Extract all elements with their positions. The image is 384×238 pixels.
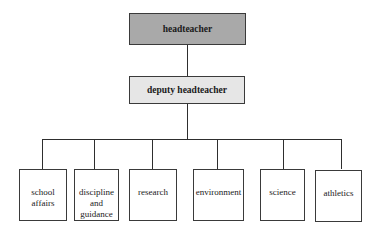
connector-discipline (94, 139, 95, 169)
node-label: environment (195, 187, 243, 198)
node-label: science (268, 187, 296, 198)
node-deputy-headteacher: deputy headteacher (129, 76, 245, 104)
connector-athletics (341, 139, 342, 169)
node-research: research (129, 169, 177, 221)
node-label: school affairs (28, 187, 58, 209)
node-headteacher: headteacher (129, 13, 246, 45)
connector-school-affairs (42, 139, 43, 169)
connector-environment (217, 139, 218, 169)
node-school-affairs: school affairs (19, 169, 67, 221)
node-discipline-and-guidance: discipline and guidance (74, 169, 119, 221)
node-environment: environment (193, 169, 244, 221)
connector-deputy-bus (187, 104, 188, 140)
connector-headteacher-deputy (187, 45, 188, 76)
node-athletics: athletics (315, 170, 362, 222)
connector-science (283, 139, 284, 169)
node-label: research (137, 187, 169, 198)
node-label: deputy headteacher (147, 85, 227, 96)
node-label: athletics (323, 188, 355, 199)
org-chart: headteacher deputy headteacher school af… (0, 0, 384, 238)
connector-research (152, 139, 153, 169)
node-science: science (260, 169, 305, 221)
node-label: discipline and guidance (77, 187, 116, 220)
node-label: headteacher (163, 24, 213, 35)
connector-bus (42, 139, 342, 140)
